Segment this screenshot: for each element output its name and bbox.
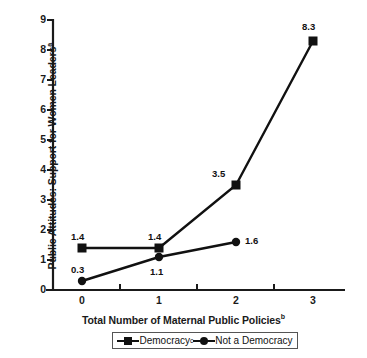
legend-item-democracy[interactable]: Democracyc [117,335,193,347]
x-axis-title-text: Total Number of Maternal Public Policies [82,314,281,326]
series-democracy [78,37,318,253]
data-label-democracy-1: 1.4 [148,231,161,242]
data-label-democracy-2: 3.5 [212,168,225,179]
legend-label-not-a-democracy: Not a Democracy [215,335,292,346]
marker-not-a-democracy-1 [155,253,163,261]
chart-legend: Democracyc Not a Democracy [112,332,298,349]
marker-democracy-0 [78,244,87,253]
marker-not-a-democracy-2 [232,238,240,246]
data-label-not-a-democracy-1: 1.1 [150,266,163,277]
marker-democracy-2 [232,181,241,190]
data-label-democracy-0: 1.4 [71,231,84,242]
data-label-not-a-democracy-0: 0.3 [71,264,84,275]
marker-democracy-1 [155,244,164,253]
data-label-not-a-democracy-2: 1.6 [245,235,258,246]
marker-democracy-3 [309,37,318,46]
legend-circle-marker-icon [193,335,215,347]
chart-figure: Public Attitudes: Support for Women Lead… [0,0,367,358]
x-axis-title-superscript: b [281,313,285,320]
data-label-democracy-3: 8.3 [302,21,315,32]
legend-item-not-a-democracy[interactable]: Not a Democracy [193,335,292,347]
line-democracy [82,41,313,248]
legend-label-democracy: Democracy [139,335,190,346]
plot-area [0,0,367,358]
marker-not-a-democracy-0 [78,277,86,285]
legend-square-marker-icon [117,335,139,347]
x-axis-title: Total Number of Maternal Public Policies… [0,313,367,326]
